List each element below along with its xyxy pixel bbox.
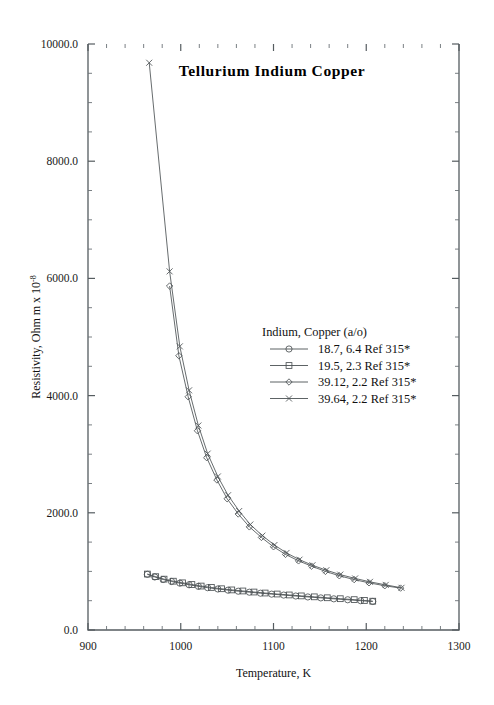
legend-entry-label: 39.64, 2.2 Ref 315* bbox=[318, 392, 416, 406]
legend-entry-label: 19.5, 2.3 Ref 315* bbox=[318, 359, 410, 373]
y-axis-exponent: -8 bbox=[29, 275, 38, 282]
x-axis-title: Temperature, K bbox=[236, 666, 311, 680]
chart-titles-group: Tellurium Indium CopperTemperature, KRes… bbox=[29, 62, 366, 680]
y-tick-label: 8000.0 bbox=[46, 155, 78, 167]
data-point-cross bbox=[236, 508, 242, 514]
legend-entry-4[interactable]: 39.64, 2.2 Ref 315* bbox=[270, 392, 416, 406]
y-tick-label: 2000.0 bbox=[46, 507, 78, 519]
y-axis-title: Resistivity, Ohm m x 10-8 bbox=[29, 275, 44, 399]
legend-entry-2[interactable]: 19.5, 2.3 Ref 315* bbox=[270, 359, 410, 373]
x-tick-label: 900 bbox=[79, 640, 97, 652]
y-tick-label: 0.0 bbox=[64, 624, 79, 636]
data-point-cross bbox=[352, 575, 358, 581]
chart-legend: Indium, Copper (a/o)18.7, 6.4 Ref 315*19… bbox=[262, 325, 416, 406]
x-tick-label: 1000 bbox=[169, 640, 192, 652]
x-tick-label: 1300 bbox=[448, 640, 471, 652]
data-point-cross bbox=[225, 492, 231, 498]
legend-title: Indium, Copper (a/o) bbox=[262, 325, 367, 339]
x-tick-label: 1100 bbox=[262, 640, 285, 652]
chart-container: 90010001100120013000.02000.04000.06000.0… bbox=[0, 0, 494, 705]
x-tick-label: 1200 bbox=[355, 640, 378, 652]
y-tick-label: 10000.0 bbox=[41, 38, 79, 50]
legend-entry-label: 39.12, 2.2 Ref 315* bbox=[318, 375, 416, 389]
resistivity-line-chart: 90010001100120013000.02000.04000.06000.0… bbox=[0, 0, 494, 705]
legend-entry-1[interactable]: 18.7, 6.4 Ref 315* bbox=[270, 342, 410, 356]
y-tick-label: 6000.0 bbox=[46, 272, 78, 284]
data-point-cross bbox=[296, 557, 302, 563]
legend-entry-label: 18.7, 6.4 Ref 315* bbox=[318, 342, 410, 356]
chart-title: Tellurium Indium Copper bbox=[179, 62, 365, 79]
data-point-cross bbox=[337, 572, 343, 578]
y-tick-label: 4000.0 bbox=[46, 390, 78, 402]
legend-entry-3[interactable]: 39.12, 2.2 Ref 315* bbox=[270, 375, 416, 389]
data-point-cross bbox=[323, 567, 329, 573]
